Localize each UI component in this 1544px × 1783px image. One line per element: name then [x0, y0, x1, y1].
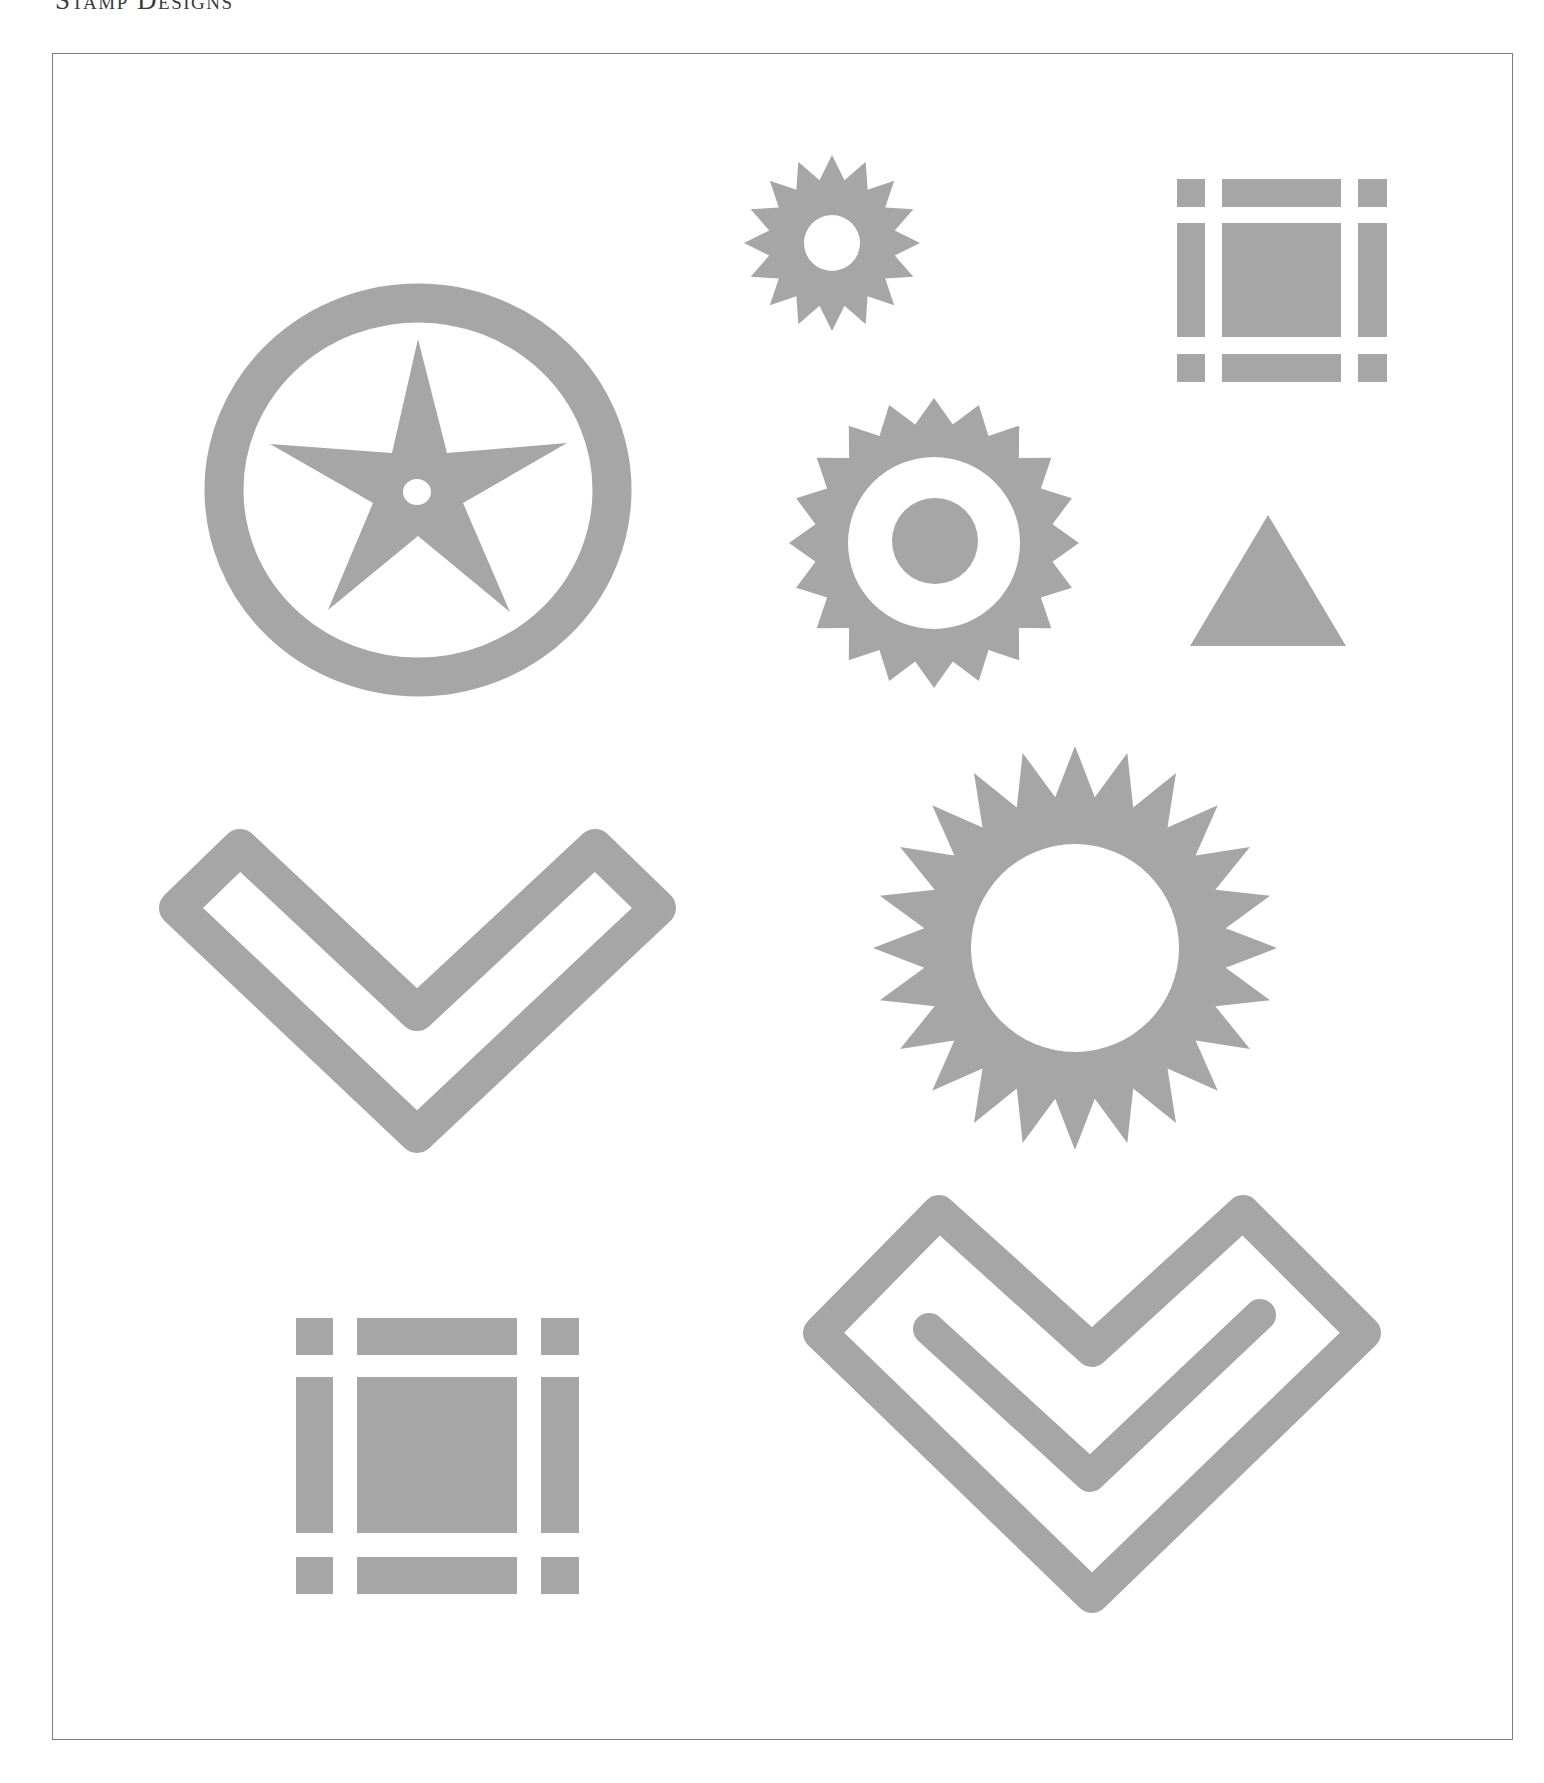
medium-sun-dot-icon [892, 498, 978, 584]
chevron-outer-icon [820, 1212, 1364, 1596]
small-sun-icon [744, 155, 920, 331]
circle-star-stamp [224, 303, 612, 677]
triangle-icon [1190, 515, 1346, 646]
star-icon [270, 339, 567, 612]
chevron-outline-icon [177, 847, 658, 1135]
large-sun-icon [873, 746, 1277, 1150]
stamp-designs-canvas [0, 0, 1544, 1783]
chevron-double-stamp [820, 1212, 1364, 1596]
grid-square-top-stamp [1177, 179, 1387, 382]
grid-square-bottom-stamp [296, 1318, 579, 1594]
